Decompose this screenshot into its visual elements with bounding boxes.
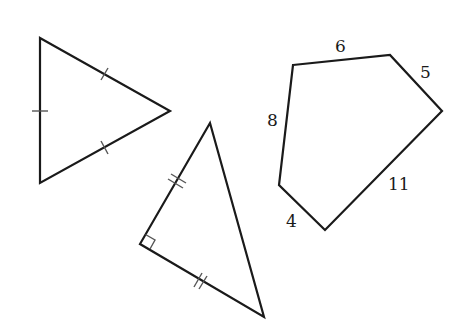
pentagon-outline	[279, 55, 442, 230]
side-label-6: 6	[335, 36, 346, 56]
geometry-figure: 6 5 11 4 8	[0, 0, 461, 335]
equilateral-triangle-outline	[40, 38, 170, 183]
pentagon: 6 5 11 4 8	[267, 36, 442, 231]
side-label-8: 8	[267, 110, 278, 130]
isosceles-right-triangle	[140, 123, 264, 317]
side-label-5: 5	[420, 62, 431, 82]
equilateral-triangle	[32, 38, 170, 183]
right-triangle-outline	[140, 123, 264, 317]
side-label-4: 4	[286, 211, 297, 231]
side-label-11: 11	[388, 174, 410, 194]
